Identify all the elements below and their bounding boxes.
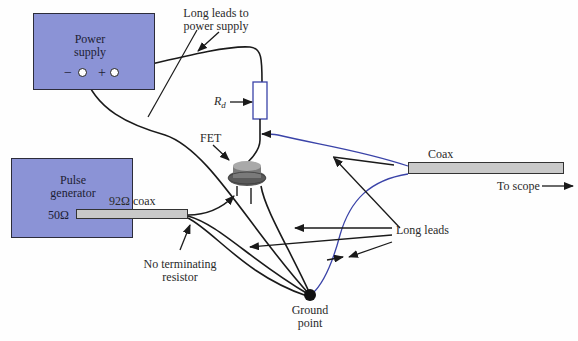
to-scope-label: To scope [497,180,540,193]
no-terminating-resistor-label: No terminating resistor [138,258,222,284]
minus-terminal [78,68,87,77]
long-leads-power-label: Long leads to power supply [176,7,256,33]
coax-label: Coax [428,148,453,161]
fet-label: FET [200,132,221,145]
coax-shield-blue-wire [312,174,408,294]
power-supply-title: Power supply [55,33,125,59]
ground-point [304,289,316,301]
resistor-rd [253,82,267,119]
fet-test-setup-diagram: Power supply − + Pulse generator 50Ω 92Ω… [0,0,578,341]
minus-terminal-label: − [64,66,72,79]
rd-to-fet-lead [248,119,260,162]
plus-terminal-label: + [98,66,106,79]
ground-point-label: Ground point [285,304,335,330]
rd-label: Rd [214,95,226,112]
scope-coax-cable [408,162,564,174]
fet-transistor [228,161,266,186]
plus-terminal [110,68,119,77]
long-leads-label: Long leads [396,224,449,237]
coax-92-label: 92Ω coax [109,195,156,208]
generator-impedance-label: 50Ω [48,209,69,222]
pulse-generator-title: Pulse generator [38,174,108,200]
pulse-coax-cable [76,209,188,219]
coax-signal-blue-wire [262,134,408,166]
long-leads-slash [148,30,197,117]
